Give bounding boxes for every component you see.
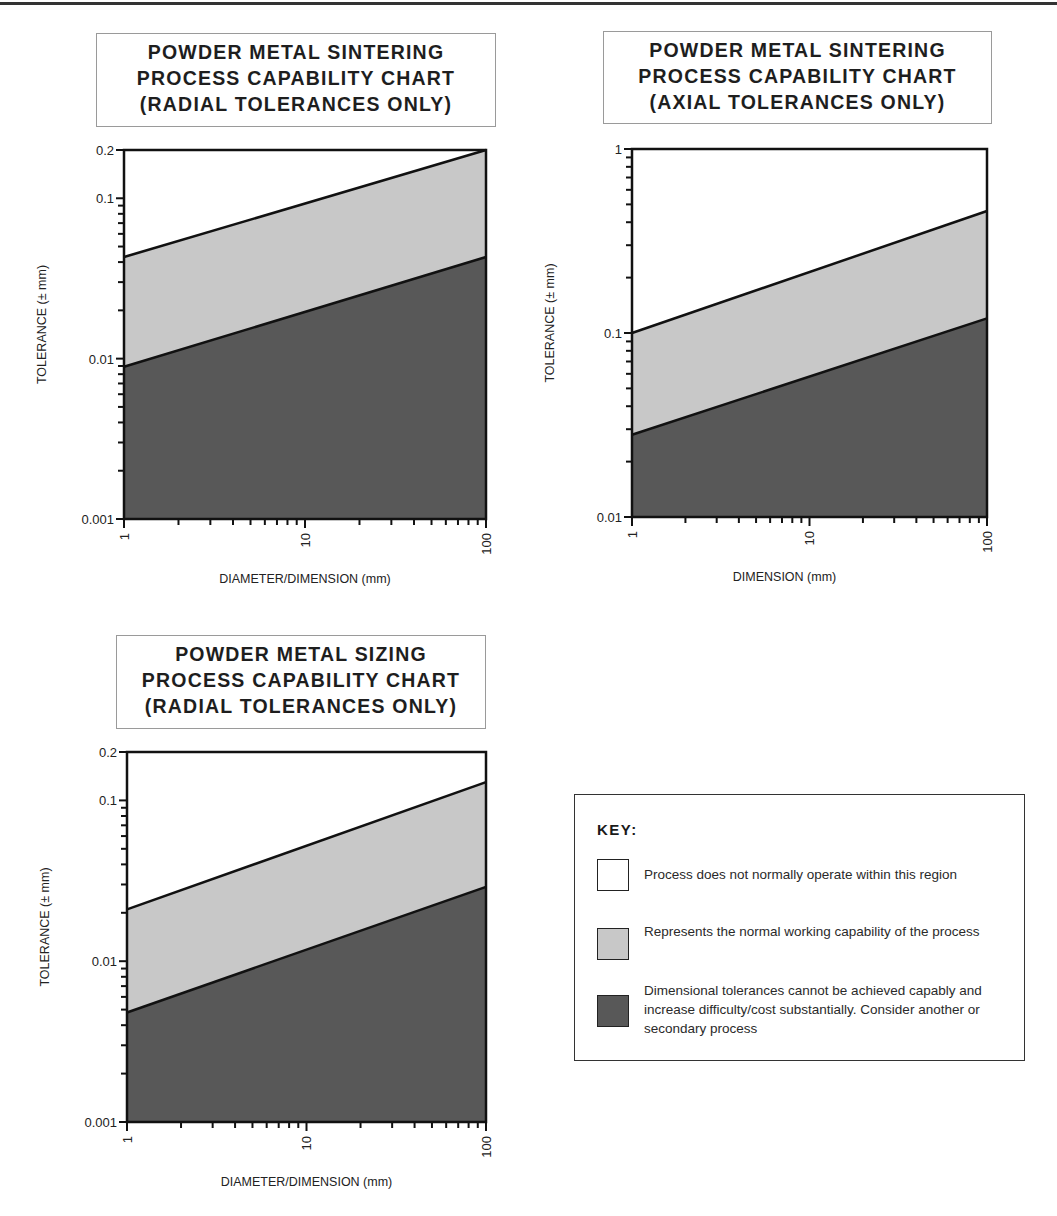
legend-label: Dimensional tolerances cannot be achieve… — [644, 981, 1004, 1038]
y-tick-label: 0.1 — [99, 793, 117, 808]
x-tick-label: 100 — [479, 1136, 494, 1158]
legend-item-dark: Dimensional tolerances cannot be achieve… — [597, 995, 1004, 1038]
swatch-light-gray-icon — [597, 928, 629, 960]
x-axis-label: DIAMETER/DIMENSION (mm) — [221, 1175, 393, 1189]
x-tick-label: 10 — [299, 1136, 314, 1150]
legend-label: Process does not normally operate within… — [644, 859, 1004, 884]
legend-item-light: Represents the normal working capability… — [597, 928, 994, 960]
y-tick-label: 0.001 — [84, 1115, 117, 1130]
swatch-dark-gray-icon — [597, 995, 629, 1027]
legend-label: Represents the normal working capability… — [644, 922, 994, 941]
x-tick-label: 1 — [120, 1136, 135, 1143]
y-axis-label: TOLERANCE (± mm) — [38, 867, 52, 986]
legend-key: KEY: Process does not normally operate w… — [574, 794, 1025, 1061]
legend-item-white: Process does not normally operate within… — [597, 859, 1004, 891]
y-tick-label: 0.01 — [92, 954, 117, 969]
y-tick-label: 0.2 — [99, 745, 117, 760]
legend-title: KEY: — [597, 821, 638, 838]
swatch-white-icon — [597, 859, 629, 891]
